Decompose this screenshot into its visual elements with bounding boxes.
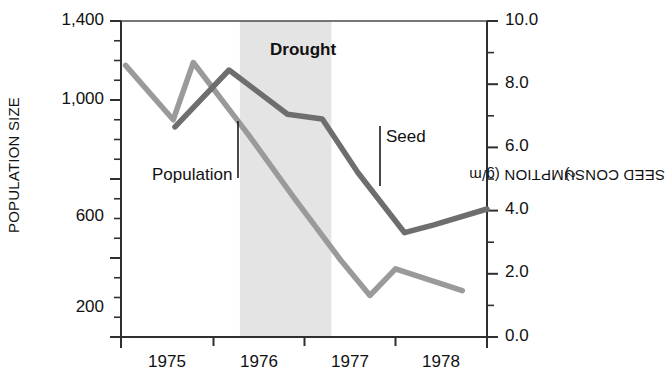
y-tick-label-right-4: 4.0 [505,199,575,219]
y-tick-label-right-10: 10.0 [505,10,575,30]
y-tick-label-left-1400: 1,400 [34,10,104,30]
y-axis-left-title: POPULATION SIZE [0,0,26,330]
y-tick-label-left-600: 600 [34,206,104,226]
y-axis-left-title-text: POPULATION SIZE [5,97,22,233]
annotation-population: Population [152,165,232,185]
y-axis-right-title: SEED CONSUMPTION (g/m2) [547,0,587,350]
x-tick-label-1978: 1978 [396,352,486,372]
annotation-drought: Drought [270,40,336,60]
x-axis-ticks [121,337,487,348]
y-axis-right-title-tail: ) [564,166,569,183]
annotation-seed: Seed [386,127,426,147]
y-tick-label-right-6: 6.0 [505,136,575,156]
y-tick-label-left-1000: 1,000 [34,89,104,109]
drought-shaded-region [240,21,332,337]
x-tick-label-1975: 1975 [122,352,212,372]
y-axis-left-major-ticks [110,21,121,337]
x-tick-label-1976: 1976 [214,352,304,372]
y-axis-right-title-text: SEED CONSUMPTION (g/m2) [558,172,576,178]
y-tick-label-right-0: 0.0 [505,326,575,346]
y-tick-label-right-2: 2.0 [505,262,575,282]
y-tick-label-left-200: 200 [34,297,104,317]
x-tick-label-1977: 1977 [305,352,395,372]
y-tick-label-right-8: 8.0 [505,73,575,93]
